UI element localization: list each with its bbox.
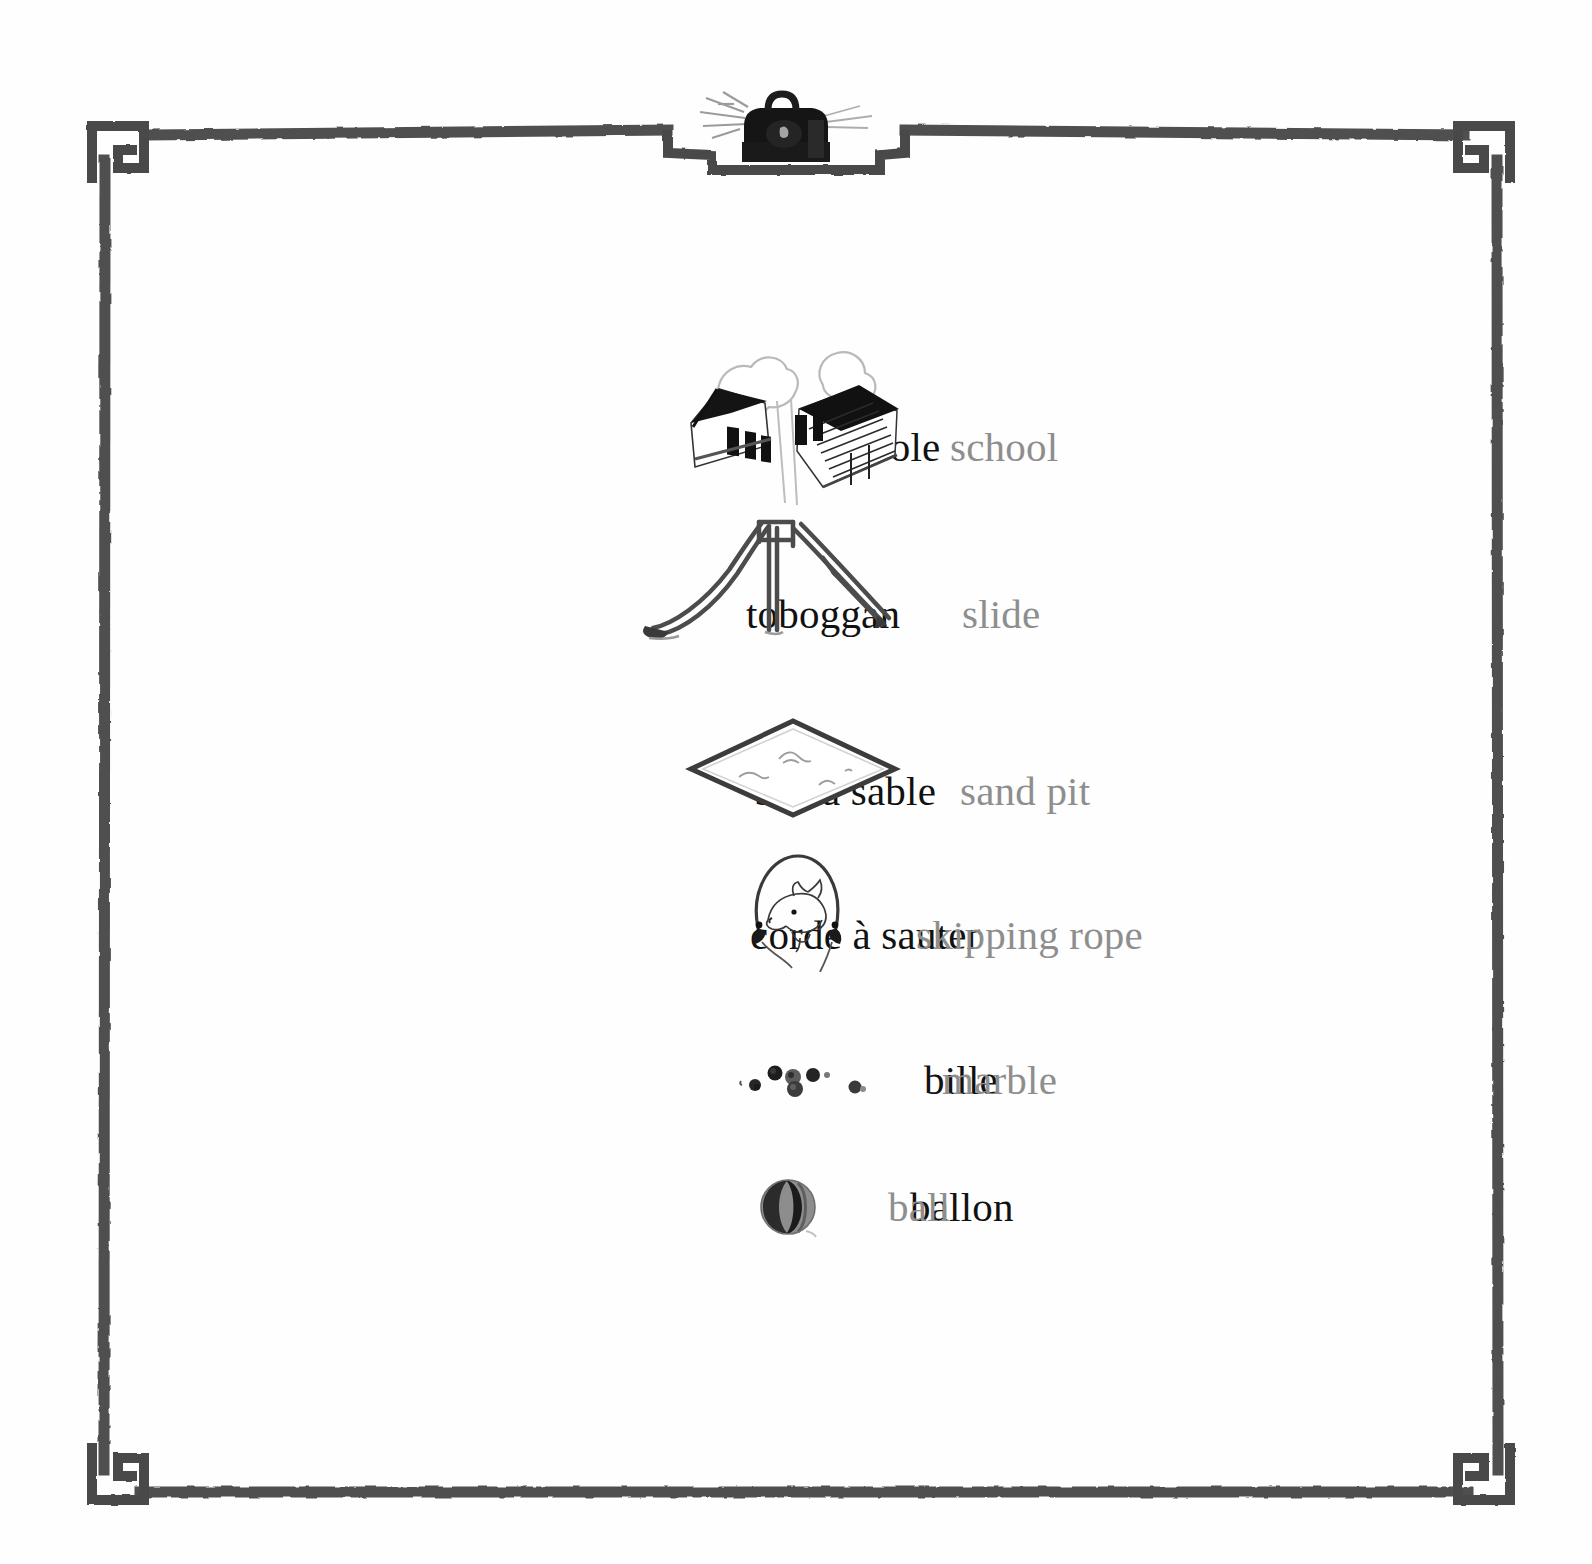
playground-slide-illustration [637, 506, 907, 646]
sand-pit-illustration [683, 713, 903, 823]
english-word-school: school [950, 423, 1058, 471]
school-right-wing [795, 385, 899, 487]
english-word-marble: marble [942, 1056, 1057, 1104]
skipping-rope-illustration [732, 842, 862, 972]
vocabulary-list: école school [0, 0, 1592, 1564]
english-word-ball: ball [888, 1183, 950, 1231]
english-word-slide: slide [962, 590, 1040, 638]
ball-illustration [750, 1167, 830, 1247]
school-building-illustration [673, 327, 903, 517]
page-canvas: école school [0, 0, 1592, 1564]
english-word-skipping-rope: skipping rope [916, 911, 1143, 959]
school-left-wing [691, 389, 771, 467]
english-word-sand-pit: sand pit [960, 767, 1090, 815]
marbles-illustration [737, 1053, 887, 1103]
